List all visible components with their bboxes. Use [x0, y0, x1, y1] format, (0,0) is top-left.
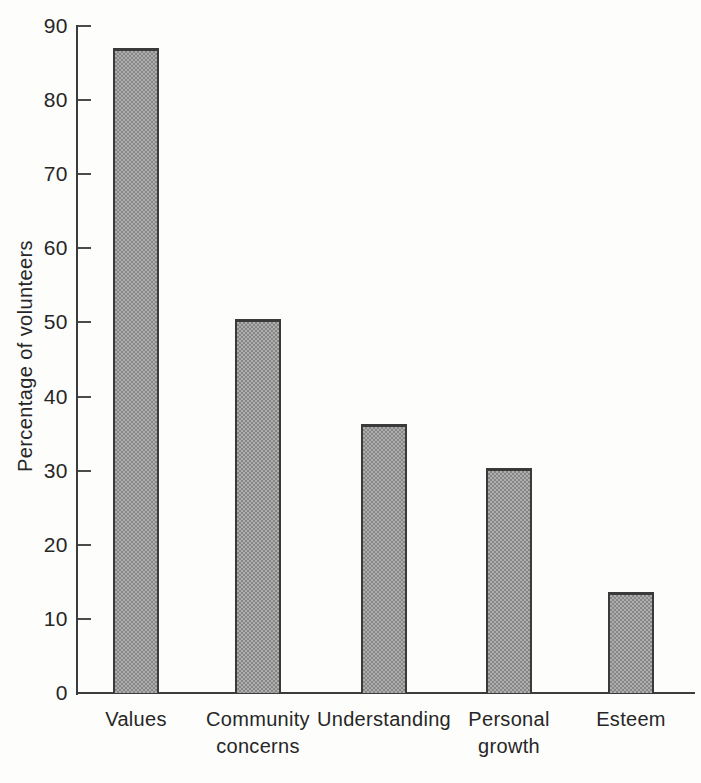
y-tick-label-70: 70 [20, 161, 68, 187]
y-axis-line [76, 25, 78, 695]
y-tick-label-10: 10 [20, 606, 68, 632]
bar-personal [486, 468, 532, 693]
scanned-bar-chart-page: Percentage of volunteers 010203040506070… [0, 0, 701, 783]
bar-understanding [361, 424, 407, 693]
y-tick-mark-70 [78, 173, 91, 175]
y-tick-label-30: 30 [20, 458, 68, 484]
y-tick-label-50: 50 [20, 309, 68, 335]
y-tick-mark-10 [78, 618, 91, 620]
y-tick-label-60: 60 [20, 235, 68, 261]
y-tick-label-0: 0 [20, 680, 68, 706]
bar-values [113, 48, 159, 693]
y-tick-label-20: 20 [20, 532, 68, 558]
bar-esteem [608, 592, 654, 693]
y-tick-mark-80 [78, 99, 91, 101]
y-tick-label-80: 80 [20, 87, 68, 113]
y-tick-mark-50 [78, 321, 91, 323]
x-category-label-esteem: Esteem [551, 706, 701, 733]
y-tick-label-90: 90 [20, 13, 68, 39]
y-tick-mark-40 [78, 396, 91, 398]
y-tick-label-40: 40 [20, 384, 68, 410]
y-tick-mark-90 [78, 25, 91, 27]
bar-community [235, 319, 281, 693]
y-tick-mark-60 [78, 247, 91, 249]
y-axis-title: Percentage of volunteers [14, 240, 37, 472]
y-tick-mark-30 [78, 470, 91, 472]
y-tick-mark-20 [78, 544, 91, 546]
